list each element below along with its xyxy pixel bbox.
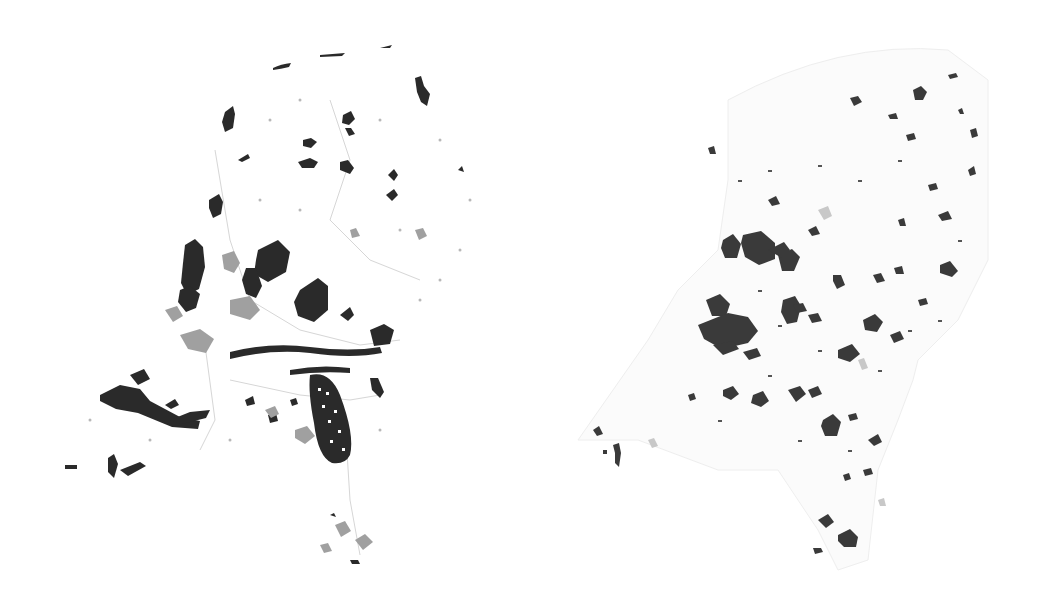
map-left: [0, 0, 518, 603]
netherlands-map-right: [518, 0, 1037, 603]
map-right: [518, 0, 1037, 603]
netherlands-map-left: [0, 0, 518, 603]
